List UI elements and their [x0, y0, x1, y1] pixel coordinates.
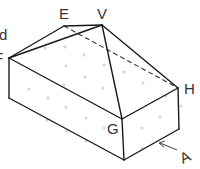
arrow-shaft: [160, 143, 177, 150]
edge-G-vertical: [122, 119, 124, 160]
hidden-edge-E-H: [64, 26, 178, 88]
label-V: V: [97, 5, 107, 22]
edge-bottom-right: [124, 129, 179, 160]
dot-texture: [28, 46, 183, 150]
edge-G-H: [122, 88, 178, 119]
diagram-canvas: d F E V H G A: [0, 0, 200, 169]
view-arrow-A: [159, 141, 177, 150]
label-G: G: [107, 120, 119, 137]
edge-H-vertical: [178, 88, 179, 129]
solid-edges: [9, 25, 179, 160]
label-H: H: [184, 80, 195, 97]
label-F: F: [0, 49, 3, 66]
edge-E-V: [64, 25, 102, 26]
label-E: E: [59, 5, 69, 22]
edge-F-V: [9, 25, 102, 58]
label-d: d: [0, 26, 7, 43]
label-A: A: [177, 147, 193, 167]
